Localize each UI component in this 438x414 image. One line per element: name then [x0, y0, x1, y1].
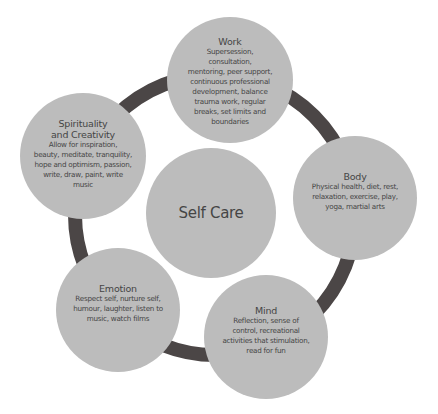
node-desc-line: activities that stimulation,	[222, 336, 309, 346]
center-title: Self Care	[179, 208, 244, 219]
node-desc-line: humour, laughter, listen to	[73, 304, 163, 314]
node-desc-line: Reflection, sense of	[233, 316, 298, 326]
node-mind: Mind Reflection, sense of control, recre…	[204, 275, 328, 399]
node-desc-line: development, balance	[192, 87, 267, 97]
node-desc-line: yoga, martial arts	[325, 202, 384, 212]
node-desc-line: read for fun	[246, 346, 285, 356]
self-care-diagram: Self Care Work Supersession, consultatio…	[0, 0, 438, 414]
node-body: Body Physical health, diet, rest, relaxa…	[293, 136, 417, 260]
node-title-line: Spirituality	[58, 118, 107, 129]
node-title: Work	[218, 36, 241, 47]
node-desc-line: write, draw, paint, write	[43, 170, 123, 180]
node-desc-line: consultation,	[208, 57, 251, 67]
node-desc-line: music, watch films	[87, 314, 149, 324]
node-desc-line: Respect self, nurture self,	[75, 294, 160, 304]
node-desc-line: Physical health, diet, rest,	[312, 182, 398, 192]
node-desc-line: Supersession,	[207, 47, 254, 57]
node-desc-line: control, recreational	[232, 326, 299, 336]
node-emotion: Emotion Respect self, nurture self, humo…	[56, 248, 180, 372]
node-desc-line: boundaries	[211, 117, 249, 127]
center-node-self-care: Self Care	[146, 148, 276, 278]
node-title: Body	[343, 171, 366, 182]
node-desc-line: hope and optimism, passion,	[34, 160, 131, 170]
node-desc-line: relaxation, exercise, play,	[312, 192, 398, 202]
node-desc-line: continuous professional	[190, 77, 270, 87]
node-desc-line: trauma work, regular	[194, 97, 265, 107]
node-desc-line: breaks, set limits and	[194, 107, 266, 117]
node-desc-line: Allow for inspiration,	[49, 140, 117, 150]
node-desc-line: music	[73, 180, 93, 190]
node-work: Work Supersession, consultation, mentori…	[167, 17, 293, 143]
node-desc-line: beauty, meditate, tranquility,	[34, 150, 132, 160]
node-title: Emotion	[99, 283, 137, 294]
node-title: Mind	[255, 305, 277, 316]
node-title-line: and Creativity	[51, 129, 115, 140]
node-desc-line: mentoring, peer support,	[188, 67, 272, 77]
node-spirituality-creativity: Spirituality and Creativity Allow for in…	[20, 93, 146, 219]
